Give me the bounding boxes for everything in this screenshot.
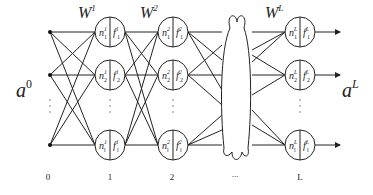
neuron: n1 2 f1 2 <box>95 60 125 90</box>
layer-L: nL 1 fL 1 nL 2 fL 2 nL l fL l <box>285 17 315 160</box>
layer-index-ellipsis: ... <box>232 169 239 179</box>
svg-text:1: 1 <box>117 34 120 40</box>
layer-2: n2 1 f2 1 n2 2 f2 2 n2 l f2 l <box>158 17 188 160</box>
input-nodes <box>48 30 52 147</box>
layer-index-1: 1 <box>108 172 113 182</box>
neuron: n2 1 f2 1 <box>158 17 188 47</box>
svg-text:1: 1 <box>294 34 297 40</box>
svg-text:1: 1 <box>167 34 170 40</box>
layer-index-L: L <box>297 172 303 182</box>
neuron: n1 1 f1 1 <box>95 17 125 47</box>
svg-text:2: 2 <box>167 77 170 83</box>
connections-input-to-layer1 <box>50 32 95 145</box>
weight-label-w1: W1 <box>78 3 96 21</box>
input-node <box>48 30 52 34</box>
vertical-ellipses <box>49 99 300 112</box>
input-node <box>48 143 52 147</box>
neuron: nL 2 fL 2 <box>285 60 315 90</box>
svg-text:1: 1 <box>104 34 107 40</box>
hidden-layers-cloud <box>222 16 251 160</box>
neuron: nL 1 fL 1 <box>285 17 315 47</box>
layer-1: n1 1 f1 1 n1 2 f1 2 n1 l f1 l <box>95 17 125 160</box>
neuron: n1 l f1 l <box>95 130 125 160</box>
output-arrows <box>315 32 340 145</box>
connections-hidden-to-layerL <box>252 32 285 145</box>
weight-label-w2: W2 <box>140 3 158 21</box>
connections-layer1-to-layer2 <box>125 32 158 145</box>
neural-network-diagram: n1 1 f1 1 n1 2 f1 2 n1 l f1 l n2 1 <box>0 0 373 195</box>
neuron: n2 2 f2 2 <box>158 60 188 90</box>
svg-text:2: 2 <box>180 77 183 83</box>
svg-text:1: 1 <box>307 34 310 40</box>
neuron: n2 l f2 l <box>158 130 188 160</box>
svg-text:2: 2 <box>117 77 120 83</box>
connections-layer2-to-hidden <box>188 32 222 145</box>
output-vector-label: aL <box>342 77 359 101</box>
neuron: nL l fL l <box>285 130 315 160</box>
svg-text:2: 2 <box>307 77 310 83</box>
input-node <box>48 73 52 77</box>
input-vector-label: a0 <box>16 77 32 101</box>
svg-text:1: 1 <box>180 34 183 40</box>
layer-index-0: 0 <box>46 172 51 182</box>
svg-text:2: 2 <box>104 77 107 83</box>
svg-text:2: 2 <box>294 77 297 83</box>
layer-index-2: 2 <box>170 172 175 182</box>
weight-label-wL: WL <box>265 3 283 21</box>
layer-index-labels: 0 1 2 ... L <box>46 169 303 182</box>
